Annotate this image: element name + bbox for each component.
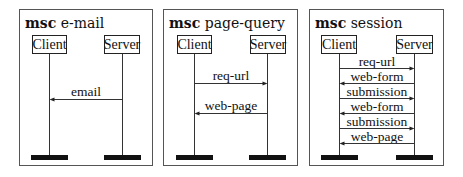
instance-end-server (104, 155, 141, 160)
message-label: web-form (350, 99, 404, 114)
instance-end-server (396, 155, 433, 160)
diagram-name: session (351, 15, 403, 31)
instance-end-client (176, 155, 213, 160)
msc-keyword: msc (315, 15, 346, 31)
instance-label-server: Server (396, 37, 433, 52)
arrow-head-icon (263, 82, 268, 86)
msc-keyword: msc (169, 15, 200, 31)
msc-diagram-e-mail: msc e-mail Client Server email (20, 10, 153, 166)
instance-label-client: Client (32, 37, 66, 52)
instance-label-server: Server (104, 37, 141, 52)
message-label: web-form (350, 69, 404, 84)
message-label: web-page (351, 129, 403, 144)
arrow-head-icon (195, 112, 200, 116)
instance-label-client: Client (177, 37, 211, 52)
instance-label-client: Client (322, 37, 356, 52)
arrow-head-icon (340, 112, 345, 116)
diagram-frame (164, 10, 298, 166)
diagram-title: msc page-query (169, 15, 285, 31)
arrow-head-icon (410, 97, 415, 101)
message-label: submission (347, 84, 408, 99)
arrow-head-icon (50, 98, 55, 102)
arrow-head-icon (340, 142, 345, 146)
arrow-head-icon (410, 67, 415, 71)
msc-keyword: msc (25, 15, 56, 31)
message-label: web-page (205, 98, 257, 113)
msc-diagrams: msc e-mail Client Server email msc page-… (0, 0, 463, 177)
msc-diagram-page-query: msc page-query Client Server req-url web… (164, 10, 298, 166)
arrow-head-icon (340, 82, 345, 86)
msc-diagram-session: msc session Client Server req-urlweb-for… (310, 10, 444, 166)
diagram-title: msc session (315, 15, 402, 31)
arrow-head-icon (410, 127, 415, 131)
message-label: submission (347, 114, 408, 129)
message-label: req-url (359, 54, 396, 69)
instance-end-client (31, 155, 68, 160)
message-list: req-urlweb-formsubmissionweb-formsubmiss… (340, 54, 415, 146)
message-label: req-url (213, 68, 250, 83)
instance-end-client (321, 155, 358, 160)
diagram-name: e-mail (61, 15, 105, 31)
message-label: email (71, 84, 101, 99)
diagram-name: page-query (205, 15, 285, 31)
diagram-title: msc e-mail (25, 15, 105, 31)
instance-end-server (249, 155, 286, 160)
instance-label-server: Server (250, 37, 287, 52)
